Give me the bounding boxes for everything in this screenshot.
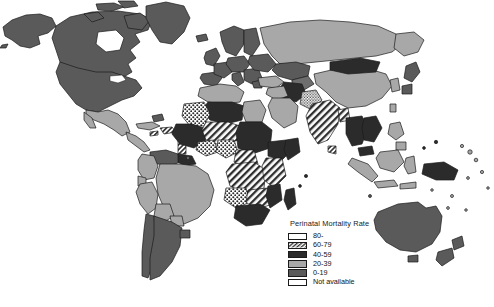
legend-label: 0-19 — [313, 269, 327, 277]
legend-swatch-not-available — [288, 279, 307, 286]
island-dot — [487, 187, 490, 190]
island-dot — [423, 147, 426, 150]
island-dot — [369, 195, 372, 198]
island-dot — [451, 195, 454, 198]
legend-item: 40-59 — [288, 250, 420, 259]
legend-label: 20-39 — [313, 260, 331, 268]
region-uruguay — [180, 230, 190, 238]
island-dot — [434, 140, 437, 143]
island-dot — [465, 209, 468, 212]
region-jamaica — [150, 131, 158, 136]
island-dot — [431, 189, 434, 192]
legend-label: Not available — [313, 278, 355, 286]
island-dot — [304, 174, 307, 177]
island-dot — [467, 177, 470, 180]
region-korea — [390, 78, 400, 92]
map-legend: Perinatal Mortality Rate 80- 60-79 40-59 — [288, 219, 420, 287]
island-dot — [468, 150, 472, 154]
legend-swatch-40-59 — [288, 251, 307, 258]
legend-label: 40-59 — [313, 251, 331, 259]
island-dot — [480, 170, 483, 173]
legend-label: 80- — [313, 232, 323, 240]
legend-swatch-80-plus — [288, 233, 307, 240]
legend-item: 20-39 — [288, 260, 420, 269]
island-dot — [299, 185, 302, 188]
region-taiwan — [390, 104, 396, 112]
legend-item: Not available — [288, 278, 420, 287]
legend-label: 60-79 — [313, 241, 331, 249]
island-dot — [187, 157, 190, 160]
region-malaysia — [358, 146, 374, 156]
legend-swatch-0-19 — [288, 269, 307, 276]
legend-swatch-20-39 — [288, 260, 307, 267]
island-dot — [460, 144, 463, 147]
legend-item: 0-19 — [288, 269, 420, 278]
region-japan-south — [402, 84, 412, 94]
legend-item: 60-79 — [288, 241, 420, 250]
legend-title: Perinatal Mortality Rate — [290, 219, 420, 228]
island-dot — [447, 207, 450, 210]
legend-swatch-60-79 — [288, 242, 307, 249]
island-dot — [474, 158, 478, 162]
region-chad-sudan — [236, 122, 272, 154]
legend-item: 80- — [288, 232, 420, 241]
region-philippines-south — [396, 142, 406, 150]
figure-caption — [27, 298, 467, 307]
world-map-figure: Perinatal Mortality Rate 80- 60-79 40-59 — [0, 0, 494, 307]
